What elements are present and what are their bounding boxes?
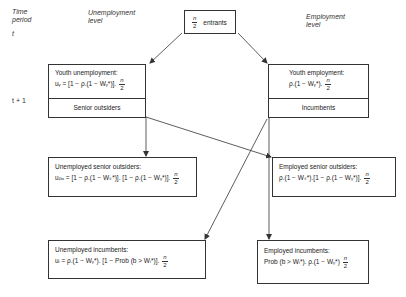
youth-employment-formula: ρ.(1 − Wᵧ*). n 2 [289, 77, 362, 91]
youth-unemployment-box: Youth unemployment: uᵧ = [1 − ρ.(1 − Wᵧ*… [48, 64, 146, 118]
fraction-numerator: n [119, 77, 124, 85]
youth-employment-title: Youth employment: [289, 69, 362, 77]
employment-level-header: Employment level [306, 13, 345, 29]
formula-text: ρ.(1 − Wₛ*).[1 − ρ.(1 − Wᵧ*)]. [279, 174, 361, 182]
formula-text: uᵧ = [1 − ρ.(1 − Wᵧ*)]. [55, 80, 116, 88]
unemployed-incumbents-formula: uᵢ = ρ.(1 − Wᵧ*). [1 − Prob (b > Wᵢ*)]. … [55, 254, 199, 268]
youth-employment-box: Youth employment: ρ.(1 − Wᵧ*). n 2 Incum… [268, 64, 369, 118]
formula-text: uᵢ = ρ.(1 − Wᵧ*). [1 − Prob (b > Wᵢ*)]. [55, 257, 159, 265]
unemployed-senior-outsiders-formula: uₚₒ = [1 − ρ.(1 − Wₛ*)]. [1 − ρ.(1 − Wᵧ*… [55, 171, 190, 185]
fraction-numerator: n [173, 171, 178, 179]
fraction-numerator: n [364, 171, 369, 179]
formula-fraction: n 2 [173, 171, 178, 185]
formula-fraction: n 2 [343, 255, 348, 269]
formula-text: Prob (b > Wᵢ*). ρ.(1 − Wᵧ*) [264, 258, 340, 266]
employed-incumbents-formula: Prob (b > Wᵢ*). ρ.(1 − Wᵧ*) n 2 [264, 255, 362, 269]
time-period-header-line1: Time [12, 8, 31, 16]
fraction-denominator: 2 [365, 179, 368, 186]
fraction-numerator: n [325, 77, 330, 85]
employment-level-line2: level [306, 21, 345, 29]
senior-outsiders-label: Senior outsiders [49, 98, 145, 117]
unemployment-level-header: Unemployment level [88, 9, 135, 25]
entrants-box: n 2 entrants [184, 10, 236, 34]
formula-fraction: n 2 [364, 171, 369, 185]
formula-fraction: n 2 [162, 254, 167, 268]
fraction-denominator: 2 [120, 85, 123, 92]
unemployed-incumbents-box: Unemployed incumbents: uᵢ = ρ.(1 − Wᵧ*).… [48, 240, 206, 279]
fraction-numerator: n [343, 255, 348, 263]
unemployment-level-line2: level [88, 17, 135, 25]
fraction-numerator: n [192, 15, 197, 23]
time-t-plus-1-label: t + 1 [12, 97, 26, 105]
fraction-denominator: 2 [174, 179, 177, 186]
incumbents-label: Incumbents [269, 98, 368, 117]
formula-fraction: n 2 [325, 77, 330, 91]
employed-incumbents-title: Employed incumbents: [264, 247, 362, 255]
formula-text: ρ.(1 − Wᵧ*). [289, 80, 322, 88]
employed-incumbents-box: Employed incumbents: Prob (b > Wᵢ*). ρ.(… [257, 240, 369, 284]
youth-unemployment-formula: uᵧ = [1 − ρ.(1 − Wᵧ*)]. n 2 [55, 77, 139, 91]
employment-level-line1: Employment [306, 13, 345, 21]
fraction-denominator: 2 [163, 262, 166, 269]
fraction-denominator: 2 [344, 263, 347, 270]
unemployed-senior-outsiders-title: Unemployed senior outsiders: [55, 163, 190, 171]
employed-senior-outsiders-title: Employed senior outsiders: [279, 163, 389, 171]
employed-senior-outsiders-box: Employed senior outsiders: ρ.(1 − Wₛ*).[… [272, 157, 396, 197]
formula-fraction: n 2 [119, 77, 124, 91]
fraction-numerator: n [162, 254, 167, 262]
entrants-fraction: n 2 [192, 15, 197, 29]
fraction-denominator: 2 [326, 85, 329, 92]
unemployment-level-line1: Unemployment [88, 9, 135, 17]
time-period-header: Time period [12, 8, 31, 24]
unemployed-senior-outsiders-box: Unemployed senior outsiders: uₚₒ = [1 − … [48, 157, 197, 197]
time-t-label: t [12, 30, 14, 38]
time-period-header-line2: period [12, 16, 31, 24]
unemployed-incumbents-title: Unemployed incumbents: [55, 246, 199, 254]
fraction-denominator: 2 [193, 23, 196, 30]
youth-unemployment-title: Youth unemployment: [55, 69, 139, 77]
formula-text: uₚₒ = [1 − ρ.(1 − Wₛ*)]. [1 − ρ.(1 − Wᵧ*… [55, 174, 170, 182]
employed-senior-outsiders-formula: ρ.(1 − Wₛ*).[1 − ρ.(1 − Wᵧ*)]. n 2 [279, 171, 389, 185]
entrants-label: entrants [203, 19, 227, 26]
